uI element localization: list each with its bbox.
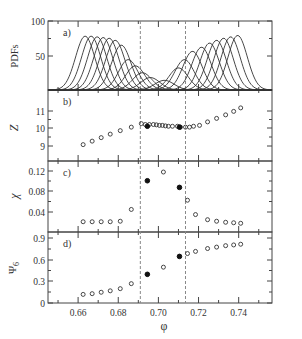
data-point-open: [118, 129, 122, 133]
data-point-open: [118, 287, 122, 291]
data-point-open: [118, 219, 122, 223]
data-point-open: [239, 221, 243, 225]
panel-label: b): [63, 96, 71, 108]
y-tick-label: 0.3: [33, 277, 45, 287]
data-point-open: [185, 198, 189, 202]
panel-label: a): [63, 27, 71, 39]
y-axis-label: Z: [7, 124, 21, 131]
data-point-open: [90, 292, 94, 296]
data-point-open: [239, 106, 243, 110]
pdf-curve: [48, 47, 272, 90]
data-point-open: [194, 249, 198, 253]
data-point-open: [206, 218, 210, 222]
data-point-open: [161, 265, 165, 269]
y-tick-label: 0.9: [33, 234, 45, 244]
x-tick-label: 0.70: [150, 308, 167, 318]
data-point-open: [198, 123, 202, 127]
y-tick-label: 0: [40, 299, 45, 309]
y-tick-label: 100: [31, 17, 46, 27]
data-point-filled: [177, 254, 182, 259]
data-point-open: [215, 116, 219, 120]
panel-frame-4: [48, 232, 272, 303]
data-point-filled: [145, 178, 150, 183]
data-point-open: [232, 109, 236, 113]
y-tick-label: 11: [36, 107, 45, 117]
x-tick-label: 0.66: [70, 308, 87, 318]
data-point-open: [170, 124, 174, 128]
data-point-filled: [145, 272, 150, 277]
data-point-filled: [177, 125, 182, 130]
panel-label: c): [63, 167, 71, 179]
panel-label: d): [63, 238, 71, 250]
data-point-open: [206, 247, 210, 251]
x-tick-label: 0.74: [230, 308, 247, 318]
y-axis-label: Ψ6: [6, 262, 21, 274]
figure: 50100a)91011b)0.040.080.12c)00.30.60.9d)…: [0, 0, 302, 339]
pdf-curve: [48, 36, 272, 90]
x-axis-label: φ: [161, 319, 168, 333]
data-point-open: [99, 220, 103, 224]
data-point-open: [81, 292, 85, 296]
data-point-open: [108, 132, 112, 136]
data-point-open: [215, 245, 219, 249]
data-point-open: [129, 125, 133, 129]
data-point-open: [239, 242, 243, 246]
x-tick-label: 0.68: [110, 308, 127, 318]
data-point-filled: [177, 185, 182, 190]
data-point-open: [99, 290, 103, 294]
data-point-open: [232, 243, 236, 247]
y-tick-label: 0.6: [33, 256, 45, 266]
data-point-open: [232, 221, 236, 225]
data-point-filled: [145, 124, 150, 129]
data-point-open: [129, 282, 133, 286]
data-point-open: [90, 220, 94, 224]
data-point-open: [215, 219, 219, 223]
y-tick-label: 0.08: [28, 187, 45, 197]
data-point-open: [90, 139, 94, 143]
y-axis-label: χ: [7, 193, 21, 200]
data-point-open: [108, 220, 112, 224]
data-point-open: [206, 120, 210, 124]
data-point-open: [194, 213, 198, 217]
data-point-open: [224, 244, 228, 248]
x-tick-label: 0.72: [190, 308, 207, 318]
data-point-open: [161, 170, 165, 174]
data-point-open: [224, 113, 228, 117]
data-point-open: [185, 252, 189, 256]
y-tick-label: 0.04: [28, 208, 45, 218]
data-point-open: [81, 143, 85, 147]
y-tick-label: 10: [36, 124, 46, 134]
data-point-open: [224, 220, 228, 224]
y-tick-label: 50: [36, 52, 46, 62]
y-axis-label: PDFs: [9, 44, 20, 67]
data-point-open: [129, 207, 133, 211]
data-point-open: [192, 124, 196, 128]
y-tick-label: 0.12: [28, 167, 45, 177]
y-tick-label: 9: [40, 142, 45, 152]
data-point-open: [188, 125, 192, 129]
data-point-open: [99, 136, 103, 140]
data-point-open: [108, 289, 112, 293]
data-point-open: [81, 220, 85, 224]
